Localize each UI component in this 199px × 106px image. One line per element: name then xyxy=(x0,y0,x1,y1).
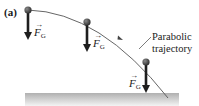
force-label-3: →FG xyxy=(129,77,141,91)
trajectory-label-line1: Parabolic xyxy=(152,31,192,43)
force-label-1: →FG xyxy=(34,26,46,40)
vector-arrow-icon: → xyxy=(130,71,138,80)
vector-arrow-icon: → xyxy=(35,20,43,29)
trajectory-figure: (a) Parabolic trajectory →FG →FG →FG xyxy=(0,0,199,106)
force-label-2: →FG xyxy=(93,37,105,51)
panel-label: (a) xyxy=(4,6,17,18)
ball-1 xyxy=(24,6,31,13)
force-subscript: G xyxy=(100,43,105,51)
label-leader-line xyxy=(139,37,151,49)
gravity-arrow-3 xyxy=(142,64,150,93)
ball-2 xyxy=(83,18,90,25)
gravity-arrow-1 xyxy=(24,12,32,40)
force-subscript: G xyxy=(41,32,46,40)
ball-3 xyxy=(142,58,149,65)
force-subscript: G xyxy=(136,83,141,91)
gravity-arrow-2 xyxy=(83,24,91,52)
path-direction-arrow-icon xyxy=(118,36,124,41)
trajectory-label: Parabolic trajectory xyxy=(152,31,192,55)
ground xyxy=(25,93,179,106)
trajectory-label-line2: trajectory xyxy=(152,43,192,55)
vector-arrow-icon: → xyxy=(94,31,102,40)
